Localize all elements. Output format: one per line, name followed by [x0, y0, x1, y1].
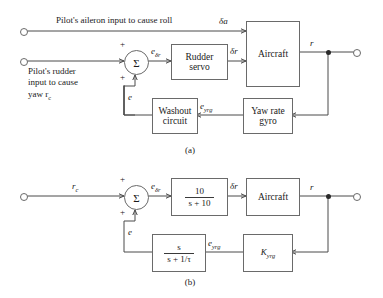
- junction-dot-b: [326, 194, 331, 199]
- e-yrg-b-sub: yrg: [212, 243, 220, 250]
- e-deltar-a-sub: δr: [155, 51, 161, 58]
- summing-junction-a[interactable]: Σ: [124, 50, 149, 75]
- e-deltar-b-sub: δr: [155, 186, 161, 193]
- e-yrg-a-sub: yrg: [204, 106, 212, 113]
- rudder-servo-line1: Rudder: [186, 52, 214, 62]
- gyro-line1: Yaw rate: [251, 106, 285, 116]
- block-rudder-servo-tf[interactable]: 10 s + 10: [171, 178, 228, 216]
- signal-label-delta-r-a: δr: [230, 46, 238, 57]
- servo-tf-numerator: 10: [185, 186, 213, 196]
- rudder-input-line2: input to cause: [28, 77, 78, 88]
- input-node-aileron[interactable]: [20, 28, 28, 36]
- input-label-rc-sub: c: [76, 186, 79, 193]
- rudder-input-label: Pilot's rudder input to cause yaw rc: [28, 66, 78, 101]
- signal-label-delta-r-b: δr: [230, 181, 238, 192]
- washout-line1: Washout: [158, 106, 191, 116]
- block-washout-circuit[interactable]: Washout circuit: [152, 98, 198, 134]
- washout-line2: circuit: [158, 116, 191, 126]
- signal-label-r-a: r: [310, 38, 314, 49]
- summing-junction-b[interactable]: Σ: [124, 185, 149, 210]
- signal-label-e-yrg-a: eyrg: [200, 101, 212, 114]
- signal-label-e-deltar-a: eδr: [151, 46, 161, 59]
- sum-sign-bottom-a: +: [120, 72, 125, 82]
- block-yaw-rate-gyro[interactable]: Yaw rate gyro: [243, 98, 293, 134]
- figure-container: Pilot's aileron input to cause roll δa P…: [0, 0, 383, 298]
- gyro-gain-sub: yrg: [267, 251, 275, 258]
- rudder-input-line3-text: yaw r: [28, 89, 48, 99]
- signal-label-delta-a: δa: [219, 16, 228, 27]
- servo-transfer-function: 10 s + 10: [185, 186, 213, 208]
- rudder-input-line1: Pilot's rudder: [28, 66, 78, 77]
- caption-a: (a): [170, 145, 210, 155]
- sum-sign-top-a: +: [120, 39, 125, 49]
- input-node-b[interactable]: [20, 193, 28, 201]
- block-aircraft-b[interactable]: Aircraft: [246, 178, 300, 216]
- washout-tf-denominator: s + 1/τ: [164, 253, 194, 264]
- input-label-rc-b: rc: [72, 181, 78, 194]
- block-gyro-gain[interactable]: Kyrg: [243, 234, 293, 272]
- signal-label-e-b: e: [128, 227, 132, 238]
- block-aircraft-a[interactable]: Aircraft: [246, 21, 300, 87]
- rudder-input-line3: yaw rc: [28, 89, 78, 102]
- gyro-gain-label: Kyrg: [261, 247, 275, 260]
- sum-sign-bottom-b: +: [120, 207, 125, 217]
- sum-sign-top-b: +: [120, 174, 125, 184]
- block-washout-tf[interactable]: s s + 1/τ: [152, 234, 206, 272]
- signal-label-e-yrg-b: eyrg: [208, 238, 220, 251]
- junction-dot-a: [326, 50, 331, 55]
- input-node-rudder[interactable]: [20, 58, 28, 66]
- gyro-line2: gyro: [251, 116, 285, 126]
- washout-transfer-function: s s + 1/τ: [164, 242, 194, 264]
- signal-label-e-deltar-b: eδr: [151, 181, 161, 194]
- signal-label-r-b: r: [310, 182, 314, 193]
- aircraft-label-b: Aircraft: [258, 192, 288, 202]
- signal-label-e-a: e: [128, 92, 132, 103]
- output-node-a[interactable]: [353, 49, 361, 57]
- yaw-rate-gyro-label: Yaw rate gyro: [251, 106, 285, 127]
- rudder-input-line3-sub: c: [48, 93, 51, 100]
- output-node-b[interactable]: [353, 193, 361, 201]
- aircraft-label-a: Aircraft: [258, 49, 288, 59]
- servo-tf-denominator: s + 10: [185, 197, 213, 208]
- rudder-servo-line2: servo: [186, 62, 214, 72]
- block-rudder-servo[interactable]: Rudder servo: [171, 44, 228, 80]
- aileron-input-label: Pilot's aileron input to cause roll: [56, 15, 172, 26]
- rudder-servo-label: Rudder servo: [186, 52, 214, 73]
- sigma-symbol-b: Σ: [133, 192, 139, 204]
- washout-circuit-label: Washout circuit: [158, 106, 191, 127]
- sigma-symbol-a: Σ: [133, 57, 139, 69]
- caption-b: (b): [170, 277, 210, 287]
- washout-tf-numerator: s: [164, 242, 194, 252]
